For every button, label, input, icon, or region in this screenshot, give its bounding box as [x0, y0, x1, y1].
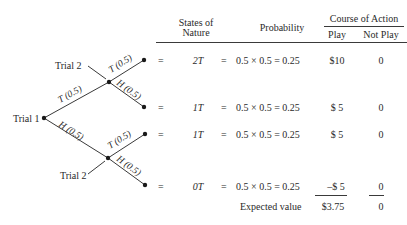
row-eq2: =	[221, 55, 227, 66]
row-eq: =	[158, 181, 164, 192]
header-not-play: Not Play	[355, 29, 407, 40]
row-probability: 0.5 × 0.5 = 0.25	[236, 129, 300, 140]
row-not-play: 0	[355, 129, 407, 140]
header-rule	[156, 42, 407, 43]
row-probability: 0.5 × 0.5 = 0.25	[236, 55, 300, 66]
label-upper-head: H (0.5)	[113, 77, 142, 103]
label-upper-tail: T (0.5)	[107, 53, 135, 76]
row-eq: =	[158, 55, 164, 66]
expected-value-play: $3.75	[316, 201, 350, 212]
leaf-node-2	[142, 105, 146, 109]
leaf-node-1	[142, 58, 146, 62]
trial1-label: Trial 1	[13, 113, 40, 124]
expected-value-label: Expected value	[240, 201, 301, 212]
label-lower-tail: T (0.5)	[106, 129, 134, 152]
row-probability: 0.5 × 0.5 = 0.25	[236, 181, 300, 192]
trial2-label-upper: Trial 2	[55, 60, 82, 71]
row-eq2: =	[221, 102, 227, 113]
row-play: $ 5	[320, 129, 354, 140]
row-probability: 0.5 × 0.5 = 0.25	[236, 102, 300, 113]
header-play: Play	[320, 29, 354, 40]
expected-value-not-play: 0	[355, 201, 407, 212]
row-eq: =	[158, 102, 164, 113]
play-sum-rule	[315, 195, 347, 196]
course-of-action-rule	[324, 26, 404, 27]
row-eq2: =	[221, 181, 227, 192]
trial2-label-lower: Trial 2	[60, 170, 87, 181]
row-state: 1T	[180, 129, 216, 140]
node-trial1	[42, 116, 46, 120]
node-trial2-lower	[106, 156, 110, 160]
row-play: $10	[320, 55, 354, 66]
row-state: 1T	[180, 102, 216, 113]
pointer-lower-trial2	[88, 161, 105, 174]
header-course-of-action: Course of Action	[322, 13, 406, 24]
header-states-of-nature-line2: Nature	[160, 27, 232, 38]
row-not-play: 0	[355, 55, 407, 66]
label-trial1-head: H (0.5)	[56, 119, 86, 143]
label-trial1-tail: T (0.5)	[56, 84, 84, 106]
row-not-play: 0	[355, 102, 407, 113]
header-probability: Probability	[232, 22, 332, 33]
leaf-node-4	[143, 183, 147, 187]
leaf-node-3	[143, 132, 147, 136]
not-play-sum-rule	[369, 195, 384, 196]
pointer-upper-trial2	[88, 66, 106, 79]
node-trial2-upper	[107, 80, 111, 84]
row-not-play: 0	[355, 181, 407, 192]
row-eq2: =	[221, 129, 227, 140]
row-state: 2T	[180, 55, 216, 66]
row-eq: =	[158, 129, 164, 140]
row-state: 0T	[180, 181, 216, 192]
row-play: –$ 5	[316, 181, 356, 192]
row-play: $ 5	[320, 102, 354, 113]
